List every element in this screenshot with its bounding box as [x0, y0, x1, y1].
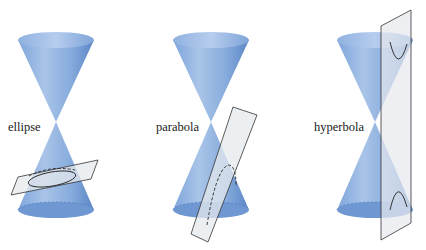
parabola-panel: [173, 32, 257, 242]
ellipse-label: ellipse: [8, 121, 41, 134]
parabola-label: parabola: [156, 121, 199, 134]
cutting-plane: [381, 10, 411, 240]
hyperbola-label: hyperbola: [314, 121, 364, 134]
